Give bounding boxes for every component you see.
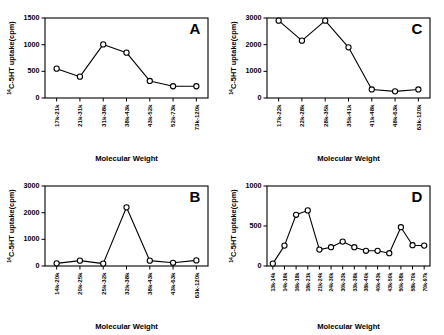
y-tick-label: 0: [36, 261, 40, 270]
x-tick-label: 30k-33k: [340, 272, 346, 291]
x-tick-label: 14k-16k: [282, 272, 288, 291]
data-point: [294, 212, 299, 217]
y-tick-label: 1000: [24, 40, 40, 49]
data-point: [375, 248, 380, 253]
data-point: [270, 261, 275, 266]
x-tick-label: 58k-70k: [410, 272, 416, 291]
x-tick-label: 50k-58k: [398, 272, 404, 291]
x-axis-title: Molecular Weight: [317, 322, 380, 331]
data-point: [352, 245, 357, 250]
y-tick-label: 1500: [24, 13, 40, 22]
data-point: [101, 261, 106, 266]
y-tick-label: 500: [28, 66, 40, 75]
panel-b: 010002000300014k-20k20k-25k25k-32k32k-38…: [0, 168, 222, 335]
data-point: [54, 261, 59, 266]
data-series-line: [57, 207, 197, 263]
x-tick-label: 16k-18k: [294, 272, 300, 291]
x-tick-label: 20k-25k: [76, 272, 83, 295]
panel-b-plot: 010002000300014k-20k20k-25k25k-32k32k-38…: [0, 168, 222, 335]
data-point: [54, 66, 59, 71]
data-point: [170, 84, 175, 89]
y-tick-label: 1000: [246, 66, 262, 75]
x-tick-label: 33k-38k: [352, 272, 358, 291]
x-tick-label: 18k-21k: [305, 272, 311, 291]
y-tick-label: 3000: [24, 181, 40, 190]
y-tick-label: 0: [36, 93, 40, 102]
y-tick-label: 0: [258, 261, 262, 270]
y-tick-label: 2000: [246, 40, 262, 49]
figure-container: 05001000150017k-21k21k-31k31k-38k38k-43k…: [0, 0, 444, 335]
data-point: [124, 205, 129, 210]
x-tick-label: 43k-63k: [169, 272, 176, 295]
x-tick-label: 52k-73k: [169, 104, 176, 127]
y-tick-label: 2000: [24, 208, 40, 217]
plot-frame: [267, 18, 430, 98]
panel-letter: C: [412, 20, 423, 37]
panel-d-plot: 0500100013k-14k14k-16k16k-18k18k-21k21k-…: [222, 168, 444, 335]
panel-letter: D: [412, 188, 423, 205]
data-point: [346, 45, 351, 50]
data-point: [101, 42, 106, 47]
data-point: [363, 248, 368, 253]
data-point: [276, 18, 281, 23]
x-tick-label: 70k-97k: [422, 272, 428, 291]
data-point: [416, 87, 421, 92]
x-axis-title: Molecular Weight: [95, 154, 158, 163]
data-point: [147, 78, 152, 83]
data-point: [77, 258, 82, 263]
x-tick-label: 41k-48k: [368, 104, 375, 127]
data-point: [194, 258, 199, 263]
data-series-line: [273, 210, 424, 263]
data-series-line: [279, 21, 419, 92]
panel-c-plot: 010002000300017k-22k22k-28k28k-35k35k-41…: [222, 0, 444, 167]
data-point: [147, 258, 152, 263]
data-point: [392, 89, 397, 94]
data-point: [340, 239, 345, 244]
data-point: [299, 38, 304, 43]
x-tick-label: 63k-120k: [415, 104, 422, 130]
x-tick-label: 48k-63k: [391, 104, 398, 127]
data-point: [410, 243, 415, 248]
x-tick-label: 31k-38k: [100, 104, 107, 127]
x-tick-label: 63k-120k: [193, 272, 200, 298]
x-tick-label: 40k-43k: [375, 272, 381, 291]
x-axis-title: Molecular Weight: [95, 322, 158, 331]
panel-d: 0500100013k-14k14k-16k16k-18k18k-21k21k-…: [222, 168, 444, 335]
x-tick-label: 24k-30k: [328, 272, 334, 291]
x-tick-label: 38k-43k: [123, 104, 130, 127]
y-axis-title: 14C-5HT uptake(cpm): [6, 21, 16, 95]
data-point: [369, 87, 374, 92]
x-axis-title: Molecular Weight: [317, 154, 380, 163]
x-tick-label: 17k-22k: [275, 104, 282, 127]
data-point: [398, 225, 403, 230]
x-tick-label: 32k-38k: [123, 272, 130, 295]
data-point: [282, 243, 287, 248]
panel-a-plot: 05001000150017k-21k21k-31k31k-38k38k-43k…: [0, 0, 222, 167]
x-tick-label: 38k-40k: [363, 272, 369, 291]
x-tick-label: 13k-14k: [270, 272, 276, 291]
y-tick-label: 0: [258, 93, 262, 102]
y-tick-label: 1000: [246, 181, 262, 190]
y-tick-label: 1000: [24, 234, 40, 243]
data-point: [387, 251, 392, 256]
x-tick-label: 21k-31k: [76, 104, 83, 127]
data-point: [323, 18, 328, 23]
data-point: [77, 74, 82, 79]
x-tick-label: 38k-43k: [146, 272, 153, 295]
x-tick-label: 43k-52k: [146, 104, 153, 127]
x-tick-label: 35k-41k: [345, 104, 352, 127]
panel-letter: A: [190, 20, 201, 37]
data-point: [317, 247, 322, 252]
x-tick-label: 22k-28k: [298, 104, 305, 127]
x-tick-label: 21k-24k: [317, 272, 323, 291]
plot-frame: [45, 186, 208, 266]
y-axis-title: 14C-5HT uptake(cpm): [6, 189, 16, 263]
x-tick-label: 25k-32k: [100, 272, 107, 295]
y-axis-title: 14C-5HT uptake(cpm): [228, 189, 238, 263]
x-tick-label: 28k-35k: [322, 104, 329, 127]
data-point: [124, 50, 129, 55]
data-point: [422, 243, 427, 248]
x-tick-label: 17k-21k: [53, 104, 60, 127]
y-axis-title: 14C-5HT uptake(cpm): [228, 21, 238, 95]
x-tick-label: 14k-20k: [53, 272, 60, 295]
